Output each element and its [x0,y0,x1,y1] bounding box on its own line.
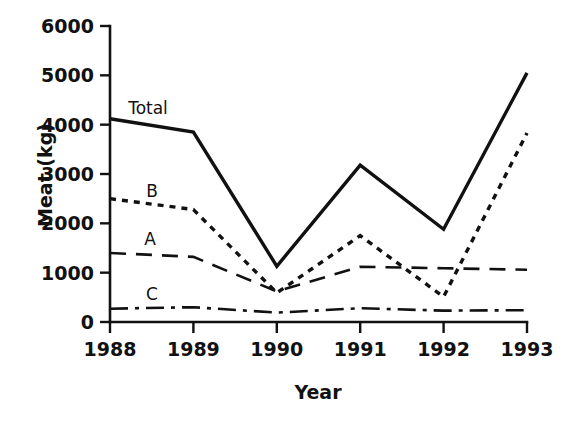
series-label-a: A [144,229,156,249]
series-inline-labels: TotalBAC [127,98,168,304]
x-tick-label: 1991 [334,338,387,360]
series-label-total: Total [127,98,168,118]
x-axis-title: Year [293,381,342,403]
series-line-a [110,253,527,291]
chart-container: 0100020003000400050006000 19881989199019… [0,0,573,427]
x-axis-ticks: 198819891990199119921993 [84,322,554,360]
y-tick-label: 6000 [41,15,94,37]
y-tick-label: 0 [81,311,94,333]
y-tick-label: 1000 [41,262,94,284]
series-line-total [110,73,527,266]
line-chart: 0100020003000400050006000 19881989199019… [0,0,573,427]
series-line-c [110,307,527,312]
x-tick-label: 1992 [417,338,470,360]
series-label-b: B [146,181,158,201]
series-label-c: C [146,284,158,304]
y-tick-label: 5000 [41,64,94,86]
x-tick-label: 1990 [250,338,303,360]
series-lines [110,73,527,313]
x-tick-label: 1989 [167,338,220,360]
y-axis-title: Meat (kg) [34,123,56,227]
x-tick-label: 1988 [84,338,137,360]
x-tick-label: 1993 [501,338,554,360]
